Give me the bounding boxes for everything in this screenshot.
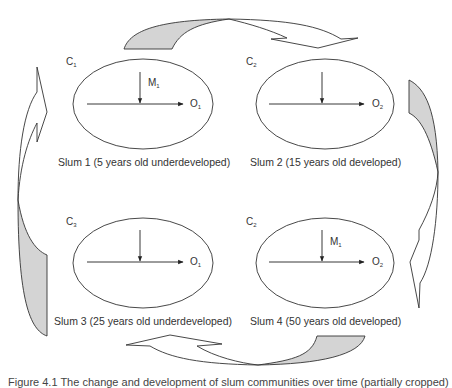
output-label-o1: O1 (190, 99, 201, 110)
output-label-o1: O1 (190, 257, 201, 268)
output-label-o2: O2 (372, 257, 383, 268)
arrow-tail-shaded (258, 336, 365, 365)
arrow-tail-shaded (124, 19, 229, 49)
input-label-m1: M1 (148, 78, 160, 89)
slum-caption-3: Slum 3 (25 years old underdeveloped) (54, 316, 232, 327)
arrow-head-outline (126, 335, 258, 365)
cycle-arrow-top (124, 19, 358, 49)
arrow-tail-shaded (409, 80, 438, 172)
community-label-c1: C1 (66, 57, 77, 68)
input-label-m1: M1 (330, 237, 342, 248)
cycle-arrow-bottom (126, 335, 365, 365)
slum-caption-4: Slum 4 (50 years old developed) (250, 316, 401, 327)
cycle-arrow-right (409, 80, 438, 308)
slum-caption-1: Slum 1 (5 years old underdeveloped) (58, 157, 230, 168)
cycle-arrow-left (18, 67, 47, 336)
figure-caption: Figure 4.1 The change and development of… (8, 377, 449, 388)
community-label-c2: C2 (246, 217, 257, 228)
output-label-o2: O2 (372, 99, 383, 110)
arrow-head-outline (410, 172, 438, 308)
community-label-c2: C2 (246, 57, 257, 68)
arrow-head-outline (18, 67, 47, 200)
arrow-tail-shaded (18, 200, 47, 336)
community-label-c3: C3 (66, 217, 77, 228)
slum-caption-2: Slum 2 (15 years old developed) (250, 157, 401, 168)
arrow-head-outline (229, 19, 358, 48)
